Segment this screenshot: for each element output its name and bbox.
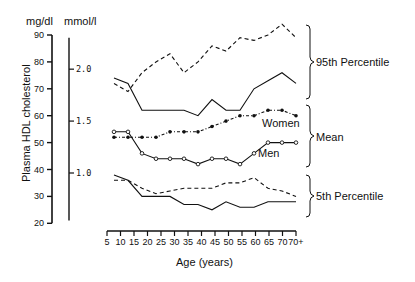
data-point — [154, 135, 158, 139]
data-point — [238, 114, 242, 118]
series-line — [114, 178, 296, 197]
x-tick-label: 5 — [104, 237, 109, 247]
y-tick-label: 20 — [34, 218, 44, 228]
label-95th-percentile: 95th Percentile — [316, 56, 389, 68]
y-tick-label: 30 — [34, 191, 44, 201]
data-point — [196, 162, 200, 166]
brace-95th — [306, 25, 314, 99]
data-point — [112, 130, 116, 134]
x-tick-label: 70+ — [288, 237, 303, 247]
data-point — [294, 141, 298, 145]
x-tick-label: 10 — [115, 237, 125, 247]
data-point — [210, 125, 214, 129]
data-point — [224, 119, 228, 123]
hdl-cholesterol-chart: mg/dl mmol/l Plasma HDL cholesterol 2030… — [0, 0, 415, 282]
data-point — [140, 152, 144, 156]
data-point — [182, 157, 186, 161]
label-men: Men — [258, 147, 279, 159]
data-point — [154, 157, 158, 161]
x-tick-label: 45 — [210, 237, 220, 247]
x-tick-label: 15 — [129, 237, 139, 247]
x-tick-label: 50 — [223, 237, 233, 247]
data-point — [168, 157, 172, 161]
y-tick-label: 90 — [34, 30, 44, 40]
y-tick-label: 80 — [34, 57, 44, 67]
data-point — [168, 130, 172, 134]
x-tick-label: 35 — [183, 237, 193, 247]
mmol-tick-label: 1.5 — [76, 116, 91, 126]
x-axis: 51015202530354045505560657070+ — [104, 231, 303, 247]
data-point — [238, 162, 242, 166]
series-line — [114, 24, 296, 91]
data-point — [182, 130, 186, 134]
brace-5th — [306, 175, 314, 217]
data-point — [280, 141, 284, 145]
x-tick-label: 30 — [169, 237, 179, 247]
data-point — [210, 157, 214, 161]
y-axis-mgdl: 2030405060708090 — [34, 30, 52, 228]
x-tick-label: 40 — [196, 237, 206, 247]
label-mean: Mean — [316, 131, 344, 143]
x-tick-label: 25 — [156, 237, 166, 247]
data-point — [126, 135, 130, 139]
label-women: Women — [262, 117, 300, 129]
y-tick-label: 40 — [34, 165, 44, 175]
unit-mgdl-label: mg/dl — [26, 15, 53, 27]
x-tick-label: 65 — [264, 237, 274, 247]
unit-mmol-label: mmol/l — [64, 15, 96, 27]
data-point — [140, 135, 144, 139]
data-point — [280, 109, 284, 113]
data-point — [252, 152, 256, 156]
x-tick-label: 55 — [237, 237, 247, 247]
label-5th-percentile: 5th Percentile — [316, 190, 383, 202]
x-axis-label: Age (years) — [176, 256, 233, 268]
x-tick-label: 20 — [142, 237, 152, 247]
mmol-tick-label: 2.0 — [76, 64, 91, 74]
data-point — [126, 130, 130, 134]
data-point — [252, 114, 256, 118]
x-tick-label: 60 — [250, 237, 260, 247]
y-tick-label: 60 — [34, 111, 44, 121]
brace-mean — [306, 105, 314, 167]
x-tick-label: 70 — [277, 237, 287, 247]
y-axis-label: Plasma HDL cholesterol — [20, 64, 32, 182]
y-tick-label: 50 — [34, 138, 44, 148]
data-point — [196, 130, 200, 134]
data-point — [224, 157, 228, 161]
data-point — [112, 135, 116, 139]
data-point — [266, 109, 270, 113]
series-line — [114, 175, 296, 210]
y-axis-mmol: 1.01.52.0 — [69, 38, 91, 221]
y-tick-label: 70 — [34, 84, 44, 94]
data-point — [266, 141, 270, 145]
mmol-tick-label: 1.0 — [76, 168, 91, 178]
